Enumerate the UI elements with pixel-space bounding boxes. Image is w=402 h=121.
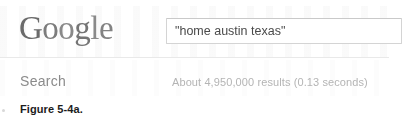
logo-letter-e: e xyxy=(99,10,113,46)
logo-letter-g-upper: G xyxy=(19,10,42,46)
results-count-text: About 4,950,000 results (0.13 seconds) xyxy=(172,75,368,89)
search-button-label[interactable]: Search xyxy=(20,72,66,90)
scan-speck xyxy=(2,109,5,112)
logo-letter-o-first: o xyxy=(42,10,58,46)
logo-letter-g-lower: g xyxy=(74,10,90,46)
logo-letter-o-second: o xyxy=(58,10,74,46)
google-logo[interactable]: Google xyxy=(19,11,113,45)
figure-caption: Figure 5-4a. xyxy=(20,102,83,116)
search-input-value[interactable]: "home austin texas" xyxy=(175,23,285,39)
logo-letter-l: l xyxy=(90,10,99,46)
header-divider xyxy=(0,57,389,58)
